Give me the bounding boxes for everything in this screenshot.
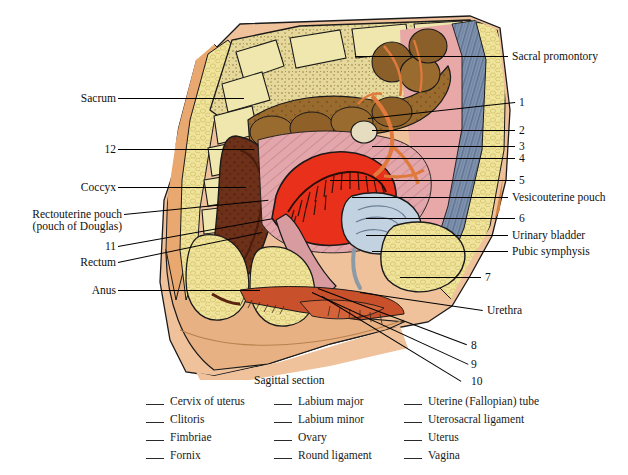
leader-4 (372, 158, 515, 159)
answer-blank[interactable] (404, 431, 422, 441)
bank-label: Fimbriae (170, 430, 212, 445)
leader-12 (118, 149, 254, 150)
bank-item[interactable]: Clitoris (146, 412, 274, 427)
label-vesicouterine-pouch: Vesicouterine pouch (512, 191, 606, 204)
ovary (351, 121, 377, 143)
answer-blank[interactable] (404, 395, 422, 405)
leader-anus (118, 290, 260, 291)
leader-6 (366, 218, 515, 219)
leader-coccyx (118, 187, 246, 188)
pubic-symphysis (381, 222, 465, 292)
bank-label: Uterus (428, 430, 459, 445)
bank-label: Round ligament (298, 448, 372, 463)
bank-label: Clitoris (170, 412, 205, 427)
bank-item[interactable]: Uterosacral ligament (404, 412, 604, 427)
bank-item[interactable]: Fimbriae (146, 430, 274, 445)
answer-blank[interactable] (404, 413, 422, 423)
bank-label: Uterine (Fallopian) tube (428, 394, 539, 409)
label-sacrum: Sacrum (0, 92, 116, 105)
label-7: 7 (485, 271, 491, 284)
leader-5 (330, 180, 515, 181)
answer-blank[interactable] (146, 395, 164, 405)
label-9: 9 (471, 358, 477, 371)
bank-item[interactable]: Labium minor (274, 412, 404, 427)
bank-label: Cervix of uterus (170, 394, 245, 409)
label-sacral-promontory: Sacral promontory (512, 50, 598, 63)
answer-blank[interactable] (146, 413, 164, 423)
bank-item[interactable]: Round ligament (274, 448, 404, 463)
bank-label: Ovary (298, 430, 327, 445)
figure-caption: Sagittal section (254, 374, 325, 386)
label-rectum: Rectum (0, 256, 116, 269)
leader-pubic-symphysis (372, 251, 508, 252)
bank-item[interactable]: Labium major (274, 394, 404, 409)
label-urinary-bladder: Urinary bladder (512, 229, 585, 242)
label-6: 6 (519, 212, 525, 225)
label-coccyx: Coccyx (0, 181, 116, 194)
label-pubic-symphysis: Pubic symphysis (512, 245, 590, 258)
answer-blank[interactable] (274, 395, 292, 405)
leader-urinary-bladder (366, 235, 508, 236)
leader-vesicouterine-pouch (352, 197, 508, 198)
leader-7 (400, 277, 481, 278)
label-11: 11 (0, 240, 116, 253)
bank-item[interactable]: Vagina (404, 448, 604, 463)
answer-blank[interactable] (274, 413, 292, 423)
bank-label: Vagina (428, 448, 460, 463)
figure-canvas: Sacrum 12 Coccyx Rectouterine pouch (pou… (0, 0, 628, 475)
label-urethra: Urethra (487, 304, 522, 317)
leader-2 (372, 130, 515, 131)
bank-label: Labium minor (298, 412, 364, 427)
bank-label: Uterosacral ligament (428, 412, 524, 427)
bank-item[interactable]: Cervix of uterus (146, 394, 274, 409)
label-12: 12 (0, 143, 116, 156)
answer-blank[interactable] (274, 449, 292, 459)
bank-item[interactable]: Fornix (146, 448, 274, 463)
label-1: 1 (519, 96, 525, 109)
label-2: 2 (519, 124, 525, 137)
answer-blank[interactable] (146, 431, 164, 441)
bank-item[interactable]: Uterine (Fallopian) tube (404, 394, 604, 409)
label-3: 3 (519, 140, 525, 153)
leader-sacral-promontory (355, 56, 508, 57)
label-10: 10 (471, 375, 483, 388)
bank-item[interactable]: Uterus (404, 430, 604, 445)
bank-label: Fornix (170, 448, 201, 463)
label-4: 4 (519, 152, 525, 165)
label-pouch-of-douglas: (pouch of Douglas) (0, 220, 122, 233)
answer-blank[interactable] (404, 449, 422, 459)
leader-3 (372, 146, 515, 147)
answer-blank[interactable] (274, 431, 292, 441)
bank-label: Labium major (298, 394, 363, 409)
label-5: 5 (519, 174, 525, 187)
label-rectouterine-pouch: Rectouterine pouch (0, 208, 122, 221)
answer-bank: Cervix of uterus Labium major Uterine (F… (146, 394, 616, 463)
leader-sacrum (118, 98, 244, 99)
bank-item[interactable]: Ovary (274, 430, 404, 445)
label-anus: Anus (0, 284, 116, 297)
label-8: 8 (471, 339, 477, 352)
answer-blank[interactable] (146, 449, 164, 459)
